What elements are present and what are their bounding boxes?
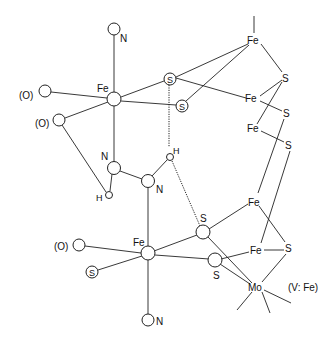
- label-cluster-s2: S: [283, 108, 290, 119]
- bonds-upper-fe: [51, 35, 249, 162]
- label-s-circ1: S: [167, 75, 173, 85]
- label-o-left1: (O): [19, 90, 33, 101]
- label-cluster-s3: S: [285, 140, 292, 151]
- label-s-lower2: S: [213, 270, 220, 281]
- bonds-cluster: [208, 16, 291, 313]
- label-fe-upper: Fe: [97, 83, 109, 94]
- label-cluster-fe3: Fe: [247, 123, 259, 134]
- atom-n-bottom: [142, 314, 154, 326]
- atom-h1: [106, 192, 113, 199]
- label-n-top: N: [120, 33, 127, 44]
- label-cluster-fe5: Fe: [250, 245, 262, 256]
- atom-s-lower1: [196, 225, 210, 239]
- label-cluster-s4: S: [285, 243, 292, 254]
- label-n-bottom: N: [156, 316, 163, 327]
- atom-n-top: [108, 23, 120, 35]
- atom-s-lower2: [208, 253, 222, 267]
- label-s-circ2: S: [179, 102, 185, 112]
- label-n-mid2: N: [156, 184, 163, 195]
- label-variant-note: (V: Fe): [288, 282, 318, 293]
- label-h2: H: [173, 146, 180, 156]
- bond-o-h: [62, 125, 106, 192]
- label-mo: Mo: [248, 282, 262, 293]
- label-cluster-fe2: Fe: [245, 93, 257, 104]
- label-s-circ3: S: [89, 268, 95, 278]
- atom-o-lower: [73, 239, 85, 251]
- atom-n-mid1: [108, 162, 121, 175]
- atom-o-left1: [39, 85, 51, 97]
- label-s-lower1: S: [200, 213, 207, 224]
- label-cluster-fe1: Fe: [247, 35, 259, 46]
- atom-fe-upper: [107, 92, 121, 106]
- atom-o-left2: [53, 114, 65, 126]
- atom-fe-lower: [141, 246, 155, 260]
- label-fe-lower: Fe: [133, 237, 145, 248]
- label-o-left2: (O): [35, 118, 49, 129]
- atom-n-mid2: [142, 175, 155, 188]
- label-h1: H: [96, 193, 103, 203]
- bonds-ring: [110, 160, 200, 246]
- label-cluster-s1: S: [282, 73, 289, 84]
- label-n-mid1: N: [101, 151, 108, 162]
- label-o-lower: (O): [54, 241, 68, 252]
- chemical-structure-diagram: N Fe (O) (O) S S N N H H Fe (O) S N S S …: [0, 0, 334, 342]
- label-cluster-fe4: Fe: [248, 197, 260, 208]
